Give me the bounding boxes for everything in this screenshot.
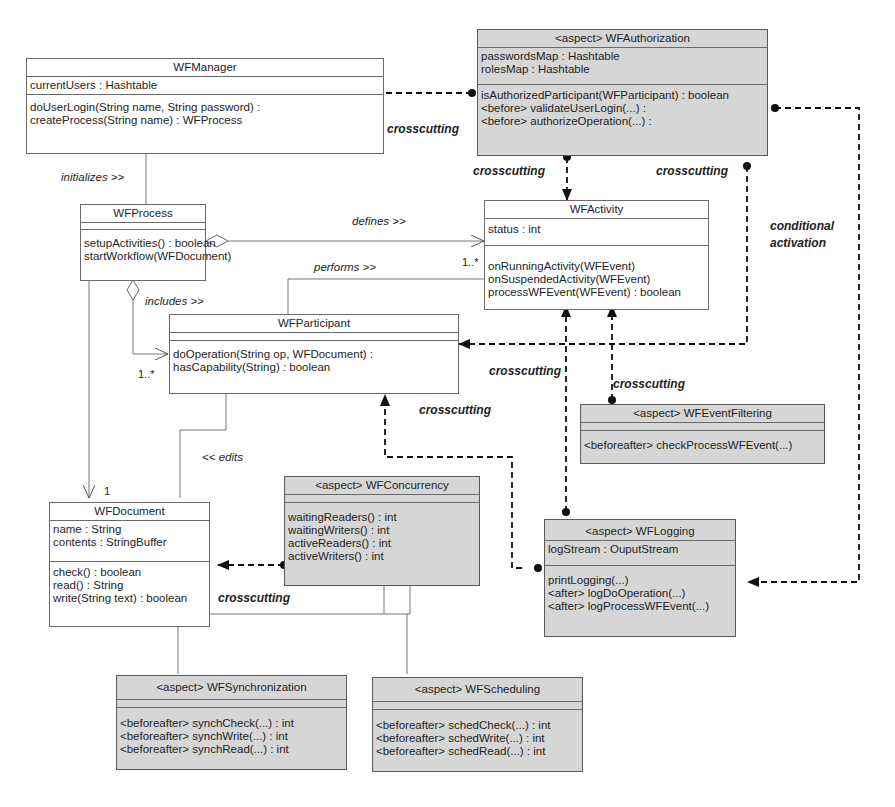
operation: check() : boolean	[53, 566, 206, 579]
attributes-section	[581, 423, 824, 431]
aspect-wfconcurrency[interactable]: <aspect> WFConcurrency waitingReaders() …	[284, 476, 480, 586]
aspect-wfsynchronization[interactable]: <aspect> WFSynchronization <beforeafter>…	[116, 675, 347, 770]
aspect-wfscheduling[interactable]: <aspect> WFScheduling <beforeafter> sche…	[372, 677, 583, 772]
class-name: <aspect> WFAuthorization	[478, 30, 767, 48]
label-conditional-activation-1: conditional	[770, 219, 834, 233]
label-crosscutting-manager: crosscutting	[387, 122, 459, 136]
operations-section: <beforeafter> schedCheck(...) : int <bef…	[373, 710, 582, 760]
operation: onRunningActivity(WFEvent)	[488, 260, 705, 273]
attributes-section	[373, 702, 582, 710]
label-crosscutting-document: crosscutting	[218, 591, 290, 605]
attribute: logStream : OuputStream	[548, 543, 732, 556]
attribute: status : int	[488, 223, 705, 236]
operation: doUserLogin(String name, String password…	[30, 101, 380, 114]
label-edits: << edits	[202, 451, 243, 463]
attributes-section	[81, 223, 205, 230]
label-defines: defines >>	[352, 215, 406, 227]
operation: <before> authorizeOperation(...) :	[481, 115, 764, 128]
operation: printLogging(...)	[548, 574, 732, 587]
label-performs: performs >>	[314, 261, 376, 273]
operation: <beforeafter> schedRead(...) : int	[376, 745, 579, 758]
label-crosscutting-conditional: crosscutting	[656, 164, 728, 178]
attributes-section: status : int	[485, 219, 708, 246]
class-name: WFParticipant	[170, 315, 458, 333]
class-name: <aspect> WFScheduling	[373, 678, 582, 702]
operation: <beforeafter> schedCheck(...) : int	[376, 719, 579, 732]
operations-section: <beforeafter> synchCheck(...) : int <bef…	[117, 708, 346, 758]
attributes-section: name : String contents : StringBuffer	[50, 521, 209, 562]
class-wfmanager[interactable]: WFManager currentUsers : Hashtable doUse…	[26, 58, 384, 154]
attribute: currentUsers : Hashtable	[30, 79, 380, 92]
operations-section: doUserLogin(String name, String password…	[27, 95, 383, 129]
operation: <beforeafter> schedWrite(...) : int	[376, 732, 579, 745]
aspect-wfeventfiltering[interactable]: <aspect> WFEventFiltering <beforeafter> …	[580, 404, 825, 464]
multiplicity-document: 1	[104, 485, 110, 497]
class-wfactivity[interactable]: WFActivity status : int onRunningActivit…	[484, 200, 709, 310]
label-crosscutting-participant-logging: crosscutting	[489, 364, 561, 378]
operation: startWorkflow(WFDocument)	[84, 250, 202, 263]
class-name: <aspect> WFSynchronization	[117, 676, 346, 700]
operation: activeReaders() : int	[288, 537, 476, 550]
attributes-section: logStream : OuputStream	[545, 541, 735, 566]
class-wfparticipant[interactable]: WFParticipant doOperation(String op, WFD…	[169, 314, 459, 394]
label-includes: includes >>	[145, 295, 204, 307]
class-name: <aspect> WFConcurrency	[285, 477, 479, 495]
attribute: contents : StringBuffer	[53, 536, 206, 549]
label-crosscutting-participant: crosscutting	[419, 403, 491, 417]
label-initializes: initializes >>	[61, 171, 124, 183]
class-name: WFManager	[27, 59, 383, 77]
attribute: passwordsMap : Hashtable	[481, 50, 764, 63]
operation: write(String text) : boolean	[53, 592, 206, 605]
operation: onSuspendedActivity(WFEvent)	[488, 273, 705, 286]
operations-section: isAuthorizedParticipant(WFParticipant) :…	[478, 85, 767, 130]
attribute: rolesMap : Hashtable	[481, 63, 764, 76]
class-wfdocument[interactable]: WFDocument name : String contents : Stri…	[49, 502, 210, 627]
operation: <beforeafter> synchWrite(...) : int	[120, 730, 343, 743]
operation: <before> validateUserLogin(...) :	[481, 102, 764, 115]
operation: <after> logDoOperation(...)	[548, 587, 732, 600]
label-crosscutting-eventfiltering: crosscutting	[613, 377, 685, 391]
multiplicity-includes: 1..*	[138, 368, 155, 380]
operations-section: printLogging(...) <after> logDoOperation…	[545, 566, 735, 615]
attributes-section	[117, 700, 346, 708]
operation: processWFEvent(WFEvent) : boolean	[488, 286, 705, 299]
class-name: WFDocument	[50, 503, 209, 521]
label-crosscutting-activity: crosscutting	[473, 164, 545, 178]
operations-section: onRunningActivity(WFEvent) onSuspendedAc…	[485, 246, 708, 301]
class-name: WFActivity	[485, 201, 708, 219]
label-conditional-activation-2: activation	[770, 236, 826, 250]
operation: waitingWriters() : int	[288, 524, 476, 537]
operations-section: <beforeafter> checkProcessWFEvent(...)	[581, 431, 824, 454]
attributes-section: currentUsers : Hashtable	[27, 77, 383, 95]
operation: hasCapability(String) : boolean	[173, 361, 455, 374]
aspect-wfauthorization[interactable]: <aspect> WFAuthorization passwordsMap : …	[477, 29, 768, 156]
class-name: <aspect> WFEventFiltering	[581, 405, 824, 423]
attributes-section	[170, 333, 458, 341]
operation: <beforeafter> synchCheck(...) : int	[120, 717, 343, 730]
attributes-section: passwordsMap : Hashtable rolesMap : Hash…	[478, 48, 767, 85]
multiplicity-defines: 1..*	[462, 256, 479, 268]
operation: <beforeafter> checkProcessWFEvent(...)	[584, 439, 821, 452]
operation: waitingReaders() : int	[288, 511, 476, 524]
operations-section: waitingReaders() : int waitingWriters() …	[285, 503, 479, 565]
operation: createProcess(String name) : WFProcess	[30, 114, 380, 127]
operations-section: setupActivities() : boolean startWorkflo…	[81, 230, 205, 265]
operation: <beforeafter> synchRead(...) : int	[120, 743, 343, 756]
attribute: name : String	[53, 523, 206, 536]
operations-section: doOperation(String op, WFDocument) : has…	[170, 341, 458, 376]
operations-section: check() : boolean read() : String write(…	[50, 562, 209, 607]
operation: <after> logProcessWFEvent(...)	[548, 600, 732, 613]
attributes-section	[285, 495, 479, 503]
operation: isAuthorizedParticipant(WFParticipant) :…	[481, 89, 764, 102]
class-name: <aspect> WFLogging	[545, 520, 735, 541]
class-name: WFProcess	[81, 205, 205, 223]
operation: doOperation(String op, WFDocument) :	[173, 348, 455, 361]
operation: read() : String	[53, 579, 206, 592]
aspect-wflogging[interactable]: <aspect> WFLogging logStream : OuputStre…	[544, 519, 736, 637]
class-wfprocess[interactable]: WFProcess setupActivities() : boolean st…	[80, 204, 206, 281]
operation: setupActivities() : boolean	[84, 237, 202, 250]
operation: activeWriters() : int	[288, 550, 476, 563]
uml-class-diagram: WFManager currentUsers : Hashtable doUse…	[0, 0, 895, 807]
